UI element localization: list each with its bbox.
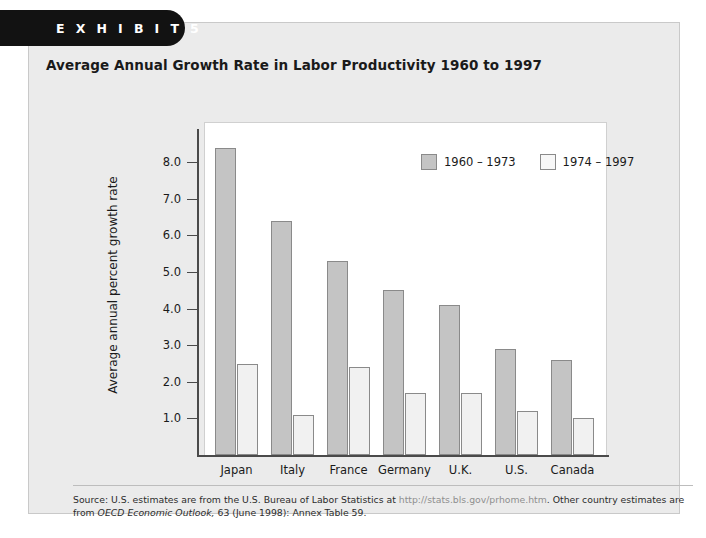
y-tick-label: 7.0	[137, 192, 181, 206]
y-tick-label-text: 2.0	[137, 375, 181, 389]
x-axis-label-canada: Canada	[533, 463, 613, 477]
source-lead-text: Source: U.S. estimates are from the U.S.…	[73, 494, 399, 505]
bar-canada-series0	[551, 360, 572, 455]
bar-canada-series1	[573, 418, 594, 455]
y-tick-mark	[187, 162, 197, 163]
y-tick-mark	[187, 272, 197, 273]
y-tick-label: 5.0	[137, 265, 181, 279]
source-url-link[interactable]: http://stats.bls.gov/prhome.htm	[399, 494, 547, 505]
legend-label: 1974 – 1997	[563, 155, 635, 169]
y-tick-label-text: 8.0	[137, 155, 181, 169]
exhibit-panel: 1.02.03.04.05.06.07.08.0 Average annual …	[28, 22, 680, 514]
bar-us-series1	[517, 411, 538, 455]
y-tick-label-text: 4.0	[137, 302, 181, 316]
legend-label: 1960 – 1973	[444, 155, 516, 169]
x-axis-line	[197, 455, 609, 457]
y-axis-title: Average annual percent growth rate	[106, 155, 120, 415]
y-axis-line	[197, 129, 199, 457]
y-tick-mark	[187, 309, 197, 310]
bar-germany-series0	[383, 290, 404, 455]
y-tick-label-text: 3.0	[137, 338, 181, 352]
y-tick-label-text: 1.0	[137, 411, 181, 425]
y-tick-mark	[187, 418, 197, 419]
y-tick-mark	[187, 235, 197, 236]
y-tick-label: 8.0	[137, 155, 181, 169]
bar-japan-series0	[215, 148, 236, 455]
bar-japan-series1	[237, 364, 258, 456]
y-tick-label: 2.0	[137, 375, 181, 389]
y-tick-label-text: 5.0	[137, 265, 181, 279]
bar-france-series0	[327, 261, 348, 455]
y-tick-label: 6.0	[137, 228, 181, 242]
source-tail-text: 63 (June 1998): Annex Table 59.	[215, 507, 367, 518]
bar-us-series0	[495, 349, 516, 455]
page-title: Average Annual Growth Rate in Labor Prod…	[46, 57, 542, 73]
exhibit-page: 1.02.03.04.05.06.07.08.0 Average annual …	[0, 0, 706, 538]
y-tick-label-text: 6.0	[137, 228, 181, 242]
y-tick-label: 3.0	[137, 338, 181, 352]
bar-uk-series1	[461, 393, 482, 455]
bar-germany-series1	[405, 393, 426, 455]
legend-swatch-icon	[421, 154, 437, 170]
chart-legend: 1960 – 19731974 – 1997	[421, 154, 634, 170]
exhibit-tab: E X H I B I T 5	[0, 10, 185, 46]
y-tick-mark	[187, 199, 197, 200]
exhibit-tab-label: E X H I B I T 5	[56, 21, 202, 36]
y-tick-mark	[187, 382, 197, 383]
bar-italy-series0	[271, 221, 292, 455]
source-divider	[73, 485, 693, 486]
source-note: Source: U.S. estimates are from the U.S.…	[73, 493, 698, 519]
y-tick-label: 4.0	[137, 302, 181, 316]
legend-entry-0: 1960 – 1973	[421, 154, 516, 170]
y-tick-label-text: 7.0	[137, 192, 181, 206]
bar-france-series1	[349, 367, 370, 455]
y-tick-mark	[187, 345, 197, 346]
y-tick-label: 1.0	[137, 411, 181, 425]
bar-italy-series1	[293, 415, 314, 455]
legend-entry-1: 1974 – 1997	[540, 154, 635, 170]
source-publication-title: OECD Economic Outlook,	[98, 507, 215, 518]
bar-uk-series0	[439, 305, 460, 455]
legend-swatch-icon	[540, 154, 556, 170]
